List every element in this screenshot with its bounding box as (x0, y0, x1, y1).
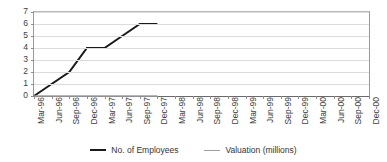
y-axis-tick-label: 5 (23, 31, 28, 40)
x-axis-tick-label: Sep-99 (284, 97, 293, 124)
x-axis-tick-label: Jun-96 (55, 97, 64, 123)
x-axis-tick-label: Dec-99 (301, 97, 310, 124)
legend-item[interactable]: Valuation (millions) (204, 146, 296, 155)
x-axis-tick-label: Jun-98 (196, 97, 205, 123)
x-axis-tick-label: Jun-99 (266, 97, 275, 123)
y-axis-tick-label: 1 (23, 79, 28, 88)
x-axis-tick-label: Sep-97 (143, 97, 152, 124)
x-axis-tick-label: Jun-97 (125, 97, 134, 123)
gridline (34, 60, 369, 61)
y-axis-tick-label: 4 (23, 43, 28, 52)
y-axis-tick-label: 2 (23, 67, 28, 76)
x-axis-tick-label: Dec-97 (160, 97, 169, 124)
x-axis-tick-label: Mar-99 (249, 97, 258, 124)
legend-swatch-icon (204, 150, 220, 151)
gridline (34, 12, 369, 13)
x-axis-tick-label: Dec-96 (90, 97, 99, 124)
x-axis-labels: Mar-96Jun-96Sep-96Dec-96Mar-97Jun-97Sep-… (33, 97, 368, 141)
x-axis-tick-label: Mar-97 (108, 97, 117, 124)
x-axis-tick-label: Sep-00 (354, 97, 363, 124)
y-axis-tick (31, 84, 34, 85)
gridline (34, 36, 369, 37)
chart-legend: No. of EmployeesValuation (millions) (0, 143, 387, 157)
y-axis-tick (31, 36, 34, 37)
y-axis-tick-label: 7 (23, 7, 28, 16)
x-axis-tick (369, 96, 370, 99)
x-axis-tick-label: Dec-98 (231, 97, 240, 124)
y-axis-tick (31, 60, 34, 61)
y-axis-tick-label: 0 (23, 91, 28, 100)
x-axis-tick-label: Jun-00 (337, 97, 346, 123)
x-axis-tick-label: Dec-00 (372, 97, 381, 124)
y-axis-tick-label: 3 (23, 55, 28, 64)
y-axis-tick (31, 48, 34, 49)
gridline (34, 24, 369, 25)
x-axis-tick-label: Sep-98 (213, 97, 222, 124)
chart-container: 76543210 Mar-96Jun-96Sep-96Dec-96Mar-97J… (0, 0, 387, 162)
gridline (34, 48, 369, 49)
plot-area (33, 11, 370, 97)
x-axis-tick-label: Mar-00 (319, 97, 328, 124)
x-axis-tick-label: Sep-96 (72, 97, 81, 124)
legend-item[interactable]: No. of Employees (90, 146, 178, 155)
y-axis-tick-label: 6 (23, 19, 28, 28)
y-axis-tick (31, 24, 34, 25)
y-axis-labels: 76543210 (10, 0, 28, 162)
y-axis-tick (31, 12, 34, 13)
legend-swatch-icon (90, 149, 106, 151)
x-axis-tick-label: Mar-96 (37, 97, 46, 124)
y-axis-tick (31, 72, 34, 73)
x-axis-tick-label: Mar-98 (178, 97, 187, 124)
gridline (34, 84, 369, 85)
legend-label: Valuation (millions) (225, 146, 296, 155)
legend-label: No. of Employees (111, 146, 178, 155)
gridline (34, 72, 369, 73)
